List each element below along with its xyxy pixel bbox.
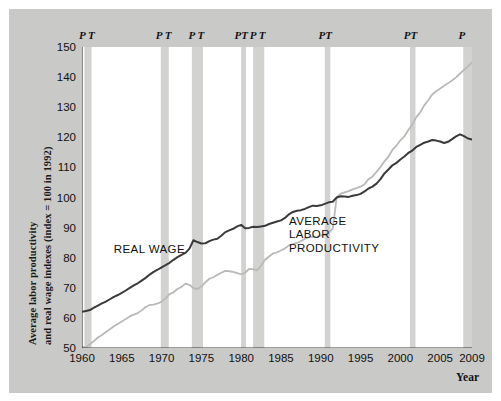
page-edge-top [0,0,501,9]
chart-svg [82,47,472,348]
recession-marker-label: P T [156,29,172,41]
page-edge-bottom [0,393,501,401]
recession-band [84,47,91,348]
y-axis-tick-label: 150 [50,41,76,53]
recession-band [410,47,416,348]
x-axis-tick-label: 1980 [219,352,263,364]
x-axis-tick-label: 1985 [259,352,303,364]
x-axis-tick-label: 1975 [179,352,223,364]
y-axis-tick-label: 90 [50,222,76,234]
y-axis-tick-label: 140 [50,71,76,83]
recession-band [241,47,246,348]
page-edge-left [0,0,9,401]
recession-band [463,47,472,348]
recession-marker-label: P T [250,29,266,41]
recession-marker-label: PT [404,29,417,41]
x-axis-title: Year [456,371,479,383]
series-annotation: AVERAGE LABOR PRODUCTIVITY [289,215,379,256]
y-axis-tick-label: 130 [50,101,76,113]
y-axis-tick-label: 60 [50,312,76,324]
recession-band [161,47,169,348]
series-annotation: REAL WAGE [114,243,185,257]
recession-marker-label: P [459,29,466,41]
x-axis-tick-label: 1970 [140,352,184,364]
y-axis-tick-label: 70 [50,282,76,294]
recession-band [192,47,203,348]
recession-band [325,47,331,348]
y-axis-tick-label: 120 [50,131,76,143]
page-edge-right [492,0,501,401]
recession-marker-label: PT [319,29,332,41]
recession-band [253,47,264,348]
x-axis-tick-label: 2000 [378,352,422,364]
plot-area [82,47,472,348]
y-axis-tick-label: 100 [50,192,76,204]
y-axis-tick-label: 110 [50,161,76,173]
y-axis-title-line1: Average labor productivity [27,222,38,345]
recession-marker-label: P T [188,29,204,41]
chart-figure: Average labor productivity and real wage… [0,0,501,401]
x-axis-tick-label: 1960 [60,352,104,364]
y-axis-tick-label: 80 [50,252,76,264]
x-axis-tick-label: 1995 [339,352,383,364]
x-axis-tick-label: 1965 [100,352,144,364]
x-axis-tick-label: 1990 [299,352,343,364]
x-axis-tick-label: 2009 [450,352,494,364]
recession-marker-label: P T [79,29,95,41]
recession-marker-label: PT [235,29,248,41]
